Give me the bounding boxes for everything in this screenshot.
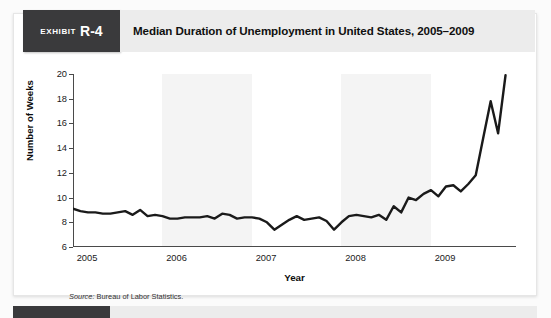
exhibit-header: Exhibit R-4 Median Duration of Unemploym…: [23, 10, 535, 52]
y-axis-tick: [69, 247, 73, 248]
x-axis-tick-label: 2008: [345, 253, 366, 263]
exhibit-card: Exhibit R-4 Median Duration of Unemploym…: [13, 13, 537, 296]
y-axis-title: Number of Weeks: [24, 80, 35, 161]
exhibit-tag-number: R-4: [80, 23, 103, 39]
page-title: Median Duration of Unemployment in Unite…: [133, 24, 474, 39]
exhibit-title-bar: Median Duration of Unemployment in Unite…: [120, 10, 535, 52]
source-label: Source:: [69, 292, 94, 301]
y-axis-tick-label: 16: [57, 118, 67, 128]
chart-area: Number of Weeks 681012141618202005200620…: [14, 56, 538, 297]
x-axis-title: Year: [73, 272, 516, 283]
y-axis-tick-label: 6: [62, 242, 67, 252]
next-exhibit-peek: [13, 306, 537, 318]
y-axis-tick-label: 10: [57, 193, 67, 203]
chart-line-svg: [73, 74, 516, 247]
x-axis-tick-label: 2009: [435, 253, 456, 263]
data-series-line: [73, 75, 506, 229]
exhibit-tag-word: Exhibit: [40, 27, 76, 36]
source-value: Bureau of Labor Statistics.: [94, 292, 183, 301]
exhibit-tag: Exhibit R-4: [23, 10, 120, 52]
y-axis-tick-label: 20: [57, 69, 67, 79]
x-axis-tick-label: 2006: [166, 253, 187, 263]
plot-canvas: 6810121416182020052006200720082009: [73, 74, 516, 247]
next-exhibit-tag: [13, 306, 110, 318]
y-axis-tick-label: 18: [57, 94, 67, 104]
plot-region: 6810121416182020052006200720082009: [73, 74, 516, 247]
x-axis-tick-label: 2005: [77, 253, 98, 263]
y-axis-tick-label: 12: [57, 168, 67, 178]
y-axis-tick-label: 8: [62, 217, 67, 227]
x-axis-tick-label: 2007: [256, 253, 277, 263]
y-axis-tick-label: 14: [57, 143, 67, 153]
next-exhibit-title-bar: [110, 306, 537, 318]
source-note: Source: Bureau of Labor Statistics.: [69, 292, 183, 301]
page-background: Exhibit R-4 Median Duration of Unemploym…: [0, 0, 551, 318]
